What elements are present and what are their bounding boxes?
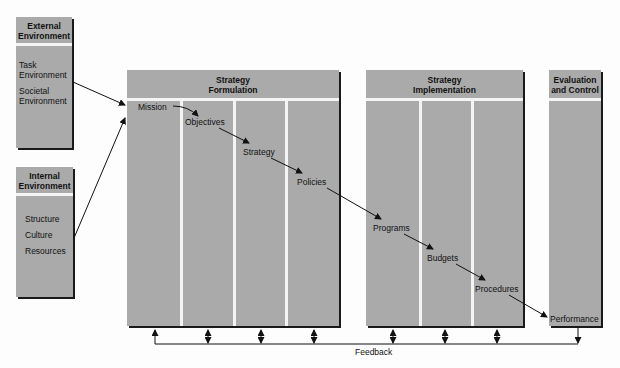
procedures-to-performance-arrow bbox=[509, 295, 547, 317]
budgets-to-procedures-arrow bbox=[456, 264, 485, 280]
feedback-double-arrows bbox=[208, 330, 497, 343]
internal-to-formulation-arrow bbox=[74, 118, 125, 238]
objectives-to-strategy-arrow bbox=[219, 128, 249, 143]
mission-to-objectives-arrow bbox=[173, 106, 198, 116]
programs-to-budgets-arrow bbox=[404, 234, 433, 249]
strategy-to-policies-arrow bbox=[271, 158, 302, 173]
policies-to-programs-arrow bbox=[327, 188, 381, 219]
connector-arrows bbox=[0, 0, 620, 368]
strategic-management-diagram: External Environment TaskEnvironment Soc… bbox=[0, 0, 620, 368]
external-to-formulation-arrow bbox=[73, 82, 125, 105]
